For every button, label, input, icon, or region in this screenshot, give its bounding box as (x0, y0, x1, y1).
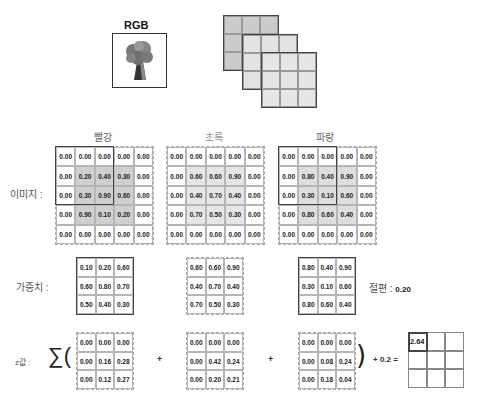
grid-cell (408, 369, 427, 388)
grid-cell: 0.30 (224, 295, 243, 314)
grid-cell: 0.80 (96, 277, 115, 296)
grid-cell: 0.40 (318, 258, 337, 277)
grid-cell: 0.00 (245, 186, 264, 205)
product-grid-green: 0.000.000.000.000.420.240.000.200.21 (186, 332, 244, 390)
grid-cell: 0.00 (357, 147, 376, 166)
grid-cell (408, 351, 427, 370)
rgb-title: RGB (124, 19, 148, 31)
grid-cell: 0.21 (224, 370, 243, 389)
grid-cell: 0.00 (245, 225, 264, 244)
grid-cell: 2.64 (408, 332, 427, 351)
weight-grid-red: 0.100.200.600.600.800.700.500.400.30 (76, 257, 134, 315)
z-row-label: z값 : (15, 356, 30, 367)
grid-cell: 0.00 (357, 225, 376, 244)
bias-expression: + 0.2 = (373, 355, 398, 364)
grid-cell: 0.60 (337, 186, 356, 205)
weights-row-label: 가중치 : (16, 279, 49, 294)
weight-grid-green: 0.600.600.900.400.700.400.700.500.30 (186, 257, 244, 315)
grid-cell (427, 351, 446, 370)
bias-label-text: 절편 : (369, 283, 393, 294)
grid-cell: 0.16 (96, 352, 115, 371)
grid-cell: 0.00 (206, 147, 225, 166)
sum-symbol: ∑( (48, 343, 71, 369)
grid-cell: 0.00 (77, 370, 96, 389)
grid-cell: 0.80 (299, 258, 318, 277)
rgb-image-frame (112, 33, 167, 88)
grid-cell: 0.00 (279, 225, 298, 244)
grid-cell: 0.40 (95, 166, 114, 185)
grid-cell: 0.24 (224, 352, 243, 371)
grid-cell: 0.00 (167, 225, 186, 244)
grid-cell: 0.08 (318, 352, 337, 371)
grid-cell: 0.70 (206, 186, 225, 205)
grid-cell: 0.60 (318, 295, 337, 314)
grid-cell: 0.00 (298, 147, 317, 166)
grid-cell: 0.00 (318, 333, 337, 352)
grid-cell (445, 369, 464, 388)
grid-cell: 0.20 (75, 166, 94, 185)
grid-cell: 0.00 (56, 225, 75, 244)
grid-cell: 0.60 (187, 258, 206, 277)
grid-cell: 0.90 (337, 166, 356, 185)
grid-cell: 0.12 (96, 370, 115, 389)
grid-cell: 0.04 (336, 370, 355, 389)
plus-operator-2: + (268, 354, 273, 364)
grid-cell: 0.10 (318, 277, 337, 296)
channel-stack-blue (261, 52, 317, 108)
weight-grid-blue: 0.800.400.900.300.100.600.800.600.40 (298, 257, 356, 315)
grid-cell: 0.40 (186, 186, 205, 205)
grid-cell: 0.00 (357, 186, 376, 205)
grid-cell: 0.27 (114, 370, 133, 389)
grid-cell: 0.00 (95, 225, 114, 244)
grid-cell: 0.80 (299, 295, 318, 314)
tree-image-icon (113, 34, 165, 86)
grid-cell: 0.00 (318, 147, 337, 166)
grid-cell: 0.00 (134, 147, 153, 166)
grid-cell: 0.00 (134, 225, 153, 244)
product-grid-blue: 0.000.000.000.000.080.240.000.180.04 (298, 332, 356, 390)
grid-cell: 0.00 (96, 333, 115, 352)
grid-cell: 0.00 (279, 147, 298, 166)
grid-cell: 0.00 (245, 147, 264, 166)
grid-cell: 0.00 (134, 166, 153, 185)
grid-cell: 0.20 (96, 258, 115, 277)
grid-cell: 0.40 (187, 277, 206, 296)
grid-cell: 0.60 (206, 258, 225, 277)
grid-cell: 0.80 (298, 166, 317, 185)
grid-cell: 0.40 (318, 166, 337, 185)
grid-cell: 0.30 (75, 186, 94, 205)
grid-cell: 0.90 (95, 186, 114, 205)
grid-cell (445, 332, 464, 351)
grid-cell: 0.00 (318, 225, 337, 244)
grid-cell: 0.00 (186, 225, 205, 244)
grid-cell: 0.10 (77, 258, 96, 277)
grid-cell: 0.10 (318, 186, 337, 205)
grid-cell: 0.00 (134, 186, 153, 205)
grid-cell: 0.60 (186, 166, 205, 185)
grid-cell: 0.90 (225, 166, 244, 185)
grid-cell: 0.00 (56, 147, 75, 166)
grid-cell: 0.00 (167, 186, 186, 205)
grid-cell (445, 351, 464, 370)
grid-cell (427, 369, 446, 388)
grid-cell: 0.00 (77, 352, 96, 371)
channel-label-red: 빨강 (94, 129, 112, 144)
grid-cell: 0.00 (225, 225, 244, 244)
grid-cell: 0.00 (187, 370, 206, 389)
grid-cell: 0.00 (167, 166, 186, 185)
grid-cell: 0.18 (318, 370, 337, 389)
grid-cell: 0.30 (299, 277, 318, 296)
grid-cell: 0.00 (167, 147, 186, 166)
grid-cell: 0.00 (225, 147, 244, 166)
channel-label-green: 초록 (205, 129, 223, 144)
grid-cell: 0.00 (114, 225, 133, 244)
grid-cell: 0.60 (318, 205, 337, 224)
image-row-label: 이미지 : (10, 186, 43, 201)
grid-cell: 0.00 (56, 186, 75, 205)
grid-cell: 0.20 (206, 370, 225, 389)
grid-cell: 0.00 (114, 333, 133, 352)
grid-cell: 0.00 (56, 205, 75, 224)
grid-cell: 0.50 (206, 295, 225, 314)
grid-cell: 0.00 (357, 166, 376, 185)
grid-cell: 0.70 (186, 205, 205, 224)
